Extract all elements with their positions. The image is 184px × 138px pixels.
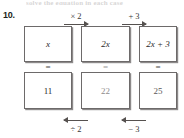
value-box-3: 25 — [139, 72, 177, 109]
equals-sign-1: = — [24, 62, 72, 72]
inverse-arrow-left-icon-2 — [122, 117, 146, 124]
arrow-head — [121, 117, 126, 123]
inverse-operation-label-2: − 3 — [116, 124, 152, 134]
equals-sign-2: = — [81, 62, 130, 72]
value-box-1: 11 — [24, 72, 72, 109]
expression-text-3: 2x + 3 — [146, 39, 170, 49]
exercise-number: 10. — [3, 10, 15, 20]
expression-text-2: 2x — [101, 39, 110, 49]
equals-sign-3: = — [139, 62, 177, 72]
expression-box-2: 2x — [81, 26, 130, 62]
forward-operation-label-2: + 3 — [116, 11, 152, 21]
value-box-2: 22 — [81, 72, 130, 109]
inverse-arrow-left-icon-1 — [64, 117, 88, 124]
value-text-3: 25 — [154, 86, 163, 96]
expression-text-1: x — [46, 39, 50, 49]
exercise-diagram: solve the equation in each case 10. × 2 … — [0, 0, 184, 138]
value-text-2: 22 — [101, 86, 110, 96]
expression-box-1: x — [24, 26, 72, 62]
expression-box-3: 2x + 3 — [139, 26, 177, 62]
forward-operation-label-1: × 2 — [58, 11, 94, 21]
value-text-1: 11 — [44, 86, 53, 96]
arrow-head — [63, 117, 68, 123]
page-bleed-text: solve the equation in each case — [26, 0, 160, 5]
inverse-operation-label-1: ÷ 2 — [58, 124, 94, 134]
